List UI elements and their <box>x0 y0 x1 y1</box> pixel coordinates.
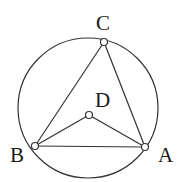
geometry-diagram: C D B A <box>0 0 184 182</box>
segment-da <box>89 115 145 147</box>
segment-ab <box>35 146 145 147</box>
point-d <box>86 112 93 119</box>
point-c <box>101 39 108 46</box>
segment-bc <box>35 42 104 146</box>
label-c: C <box>96 11 110 35</box>
label-d: D <box>95 88 110 112</box>
label-a: A <box>158 143 174 167</box>
point-a <box>142 144 149 151</box>
circumcircle <box>18 38 158 178</box>
point-b <box>32 143 39 150</box>
segment-bd <box>35 115 89 146</box>
label-b: B <box>10 143 24 167</box>
